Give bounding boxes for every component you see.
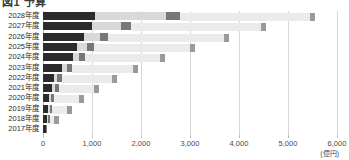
overlay-band bbox=[94, 44, 195, 52]
overlay-band-cap bbox=[112, 75, 117, 83]
chart-row: 2019年度 bbox=[0, 105, 349, 115]
bar-segment bbox=[51, 94, 54, 102]
bar-segment bbox=[43, 74, 54, 82]
y-axis-label: 2021年度 bbox=[0, 83, 39, 93]
x-tick-label: 6,000 bbox=[328, 139, 347, 148]
bar-segment bbox=[43, 53, 73, 61]
y-axis-label: 2022年度 bbox=[0, 73, 39, 83]
x-tick-0 bbox=[43, 135, 44, 138]
y-axis-label: 2017年度 bbox=[0, 124, 39, 134]
overlay-band bbox=[59, 85, 100, 93]
bar-segment bbox=[92, 22, 121, 30]
bar-segment bbox=[95, 12, 166, 20]
bar-segment bbox=[46, 125, 47, 133]
bar-segment bbox=[77, 43, 87, 51]
bar-segment bbox=[87, 43, 94, 51]
bar-segment bbox=[57, 74, 61, 82]
overlay-band-cap bbox=[94, 85, 99, 93]
x-tick-label: 1,000 bbox=[83, 139, 102, 148]
overlay-band-cap bbox=[79, 95, 84, 103]
overlay-band bbox=[72, 65, 138, 73]
x-tick-label: 3,000 bbox=[181, 139, 200, 148]
x-tick-label: 4,000 bbox=[230, 139, 249, 148]
y-axis-label: 2019年度 bbox=[0, 104, 39, 114]
overlay-band bbox=[85, 54, 164, 62]
chart-row: 2027年度 bbox=[0, 22, 349, 32]
bar-segment bbox=[43, 33, 84, 41]
chart-row: 2018年度 bbox=[0, 115, 349, 125]
x-tick-1000 bbox=[92, 135, 93, 138]
x-tick-6000 bbox=[337, 135, 338, 138]
overlay-band-cap bbox=[160, 54, 165, 62]
y-axis-label: 2028年度 bbox=[0, 11, 39, 21]
bar-segment bbox=[43, 12, 95, 20]
bar-segment bbox=[79, 53, 85, 61]
overlay-band-cap bbox=[54, 116, 59, 124]
y-axis-label: 2018年度 bbox=[0, 114, 39, 124]
overlay-band bbox=[180, 13, 315, 21]
overlay-band-cap bbox=[224, 34, 229, 42]
chart-row: 2022年度 bbox=[0, 74, 349, 84]
overlay-band bbox=[131, 23, 267, 31]
bar-segment bbox=[43, 43, 77, 51]
bar-segment bbox=[43, 22, 92, 30]
overlay-band-cap bbox=[190, 44, 195, 52]
x-tick-label: 5,000 bbox=[279, 139, 298, 148]
overlay-band-cap bbox=[133, 65, 138, 73]
x-tick-label: 0 bbox=[41, 139, 45, 148]
y-axis-label: 2027年度 bbox=[0, 21, 39, 31]
chart-row: 2025年度 bbox=[0, 43, 349, 53]
axis-unit-label: (億円) bbox=[320, 148, 339, 158]
y-axis-label: 2023年度 bbox=[0, 63, 39, 73]
overlay-band bbox=[62, 75, 117, 83]
x-axis: (億円) 01,0002,0003,0004,0005,0006,000 bbox=[0, 135, 349, 160]
x-tick-4000 bbox=[239, 135, 240, 138]
page-title: 図1 予算 bbox=[2, 0, 47, 9]
bar-segment bbox=[55, 84, 59, 92]
bar-segment bbox=[48, 115, 50, 123]
x-tick-2000 bbox=[141, 135, 142, 138]
chart-row: 2017年度 bbox=[0, 125, 349, 135]
x-tick-3000 bbox=[190, 135, 191, 138]
y-axis-label: 2026年度 bbox=[0, 32, 39, 42]
chart-row: 2023年度 bbox=[0, 64, 349, 74]
x-tick-label: 2,000 bbox=[132, 139, 151, 148]
bar-segment bbox=[121, 22, 130, 30]
chart-row: 2028年度 bbox=[0, 12, 349, 22]
bar-segment bbox=[100, 33, 108, 41]
chart-row: 2020年度 bbox=[0, 94, 349, 104]
x-tick-5000 bbox=[288, 135, 289, 138]
bar-segment bbox=[84, 33, 100, 41]
chart-row: 2024年度 bbox=[0, 53, 349, 63]
overlay-band-cap bbox=[261, 23, 266, 31]
bar-segment bbox=[166, 12, 180, 20]
bar-segment bbox=[67, 64, 72, 72]
chart-plot-area: 2028年度2027年度2026年度2025年度2024年度2023年度2022… bbox=[0, 11, 349, 135]
y-axis-label: 2024年度 bbox=[0, 52, 39, 62]
y-axis-label: 2020年度 bbox=[0, 93, 39, 103]
bar-segment bbox=[43, 84, 52, 92]
chart-row: 2021年度 bbox=[0, 84, 349, 94]
overlay-band-cap bbox=[67, 106, 72, 114]
bar-rows: 2028年度2027年度2026年度2025年度2024年度2023年度2022… bbox=[0, 11, 349, 135]
bar-segment bbox=[50, 105, 52, 113]
overlay-band-cap bbox=[310, 13, 315, 21]
chart-row: 2026年度 bbox=[0, 33, 349, 43]
y-axis-label: 2025年度 bbox=[0, 42, 39, 52]
bar-segment bbox=[43, 64, 62, 72]
overlay-band bbox=[108, 34, 230, 42]
